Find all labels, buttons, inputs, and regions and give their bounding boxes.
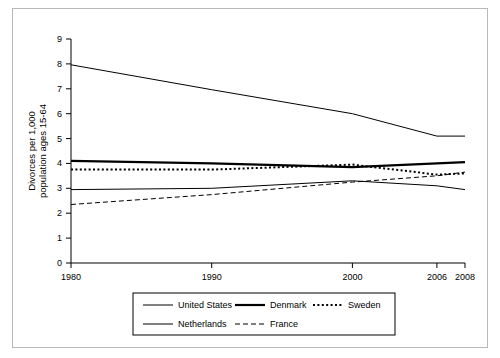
x-tick-label: 1990 — [202, 272, 222, 282]
y-tick-label: 2 — [57, 208, 62, 218]
y-tick-label: 3 — [57, 183, 62, 193]
y-tick-label: 1 — [57, 233, 62, 243]
chart-figure: 0 1 2 3 4 5 6 7 8 9 — [12, 8, 488, 348]
y-tick-label: 4 — [57, 158, 62, 168]
chart-plot-area: 0 1 2 3 4 5 6 7 8 9 — [13, 9, 489, 349]
series-denmark — [71, 161, 465, 167]
y-tick-label: 0 — [57, 258, 62, 268]
y-axis-title-line1: Divorces per 1,000 — [26, 111, 37, 191]
y-tick-label: 9 — [57, 34, 62, 44]
x-tick-label: 1980 — [61, 272, 81, 282]
series-france — [71, 172, 465, 204]
legend-label-united-states: United States — [178, 300, 233, 310]
legend-label-france: France — [270, 319, 298, 329]
y-tick-label: 8 — [57, 59, 62, 69]
series-united-states — [71, 65, 465, 136]
x-tick-label: 2000 — [342, 272, 362, 282]
legend-label-denmark: Denmark — [270, 300, 307, 310]
x-tick-label: 2006 — [427, 272, 447, 282]
series-sweden — [71, 165, 465, 175]
y-axis-ticks: 0 1 2 3 4 5 6 7 8 9 — [57, 34, 71, 268]
x-tick-label: 2008 — [455, 272, 475, 282]
legend-label-netherlands: Netherlands — [178, 319, 227, 329]
y-tick-label: 6 — [57, 109, 62, 119]
y-axis-title: Divorces per 1,000 population ages 15-64 — [26, 104, 48, 198]
y-tick-label: 5 — [57, 134, 62, 144]
x-axis-ticks: 1980 1990 2000 2006 2008 — [61, 263, 475, 282]
chart-legend: United States Denmark Sweden Netherlands… — [133, 293, 395, 335]
y-tick-label: 7 — [57, 84, 62, 94]
legend-label-sweden: Sweden — [348, 300, 381, 310]
y-axis-title-line2: population ages 15-64 — [37, 104, 48, 198]
series-netherlands — [71, 181, 465, 190]
line-chart-svg: 0 1 2 3 4 5 6 7 8 9 — [13, 9, 489, 349]
